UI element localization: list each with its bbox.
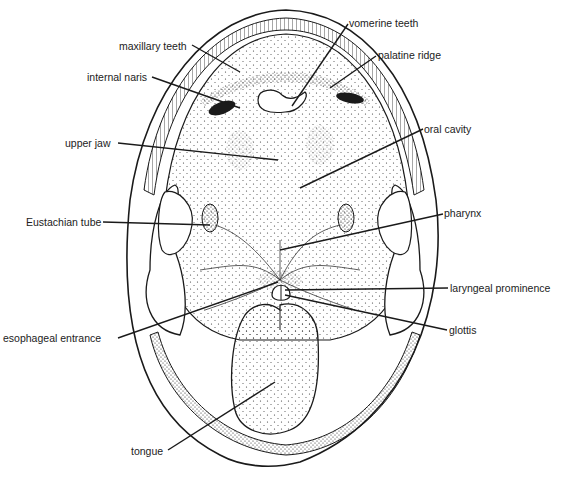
oral-cavity-diagram: maxillary teeth vomerine teeth internal … bbox=[0, 0, 572, 478]
tongue bbox=[232, 304, 319, 434]
label-laryngeal-prominence: laryngeal prominence bbox=[450, 282, 550, 294]
label-esophageal-entrance: esophageal entrance bbox=[3, 332, 101, 344]
eustachian-tube-left bbox=[202, 204, 218, 232]
eustachian-tube-right bbox=[338, 204, 354, 232]
label-tongue: tongue bbox=[131, 445, 163, 457]
label-oral-cavity: oral cavity bbox=[424, 123, 471, 135]
label-vomerine-teeth: vomerine teeth bbox=[349, 17, 418, 29]
label-eustachian-tube: Eustachian tube bbox=[26, 216, 101, 228]
label-internal-naris: internal naris bbox=[87, 71, 147, 83]
anatomy-illustration bbox=[0, 0, 572, 478]
label-palatine-ridge: palatine ridge bbox=[378, 49, 441, 61]
label-upper-jaw: upper jaw bbox=[65, 137, 111, 149]
label-maxillary-teeth: maxillary teeth bbox=[119, 40, 187, 52]
label-pharynx: pharynx bbox=[444, 207, 481, 219]
label-glottis: glottis bbox=[449, 324, 476, 336]
